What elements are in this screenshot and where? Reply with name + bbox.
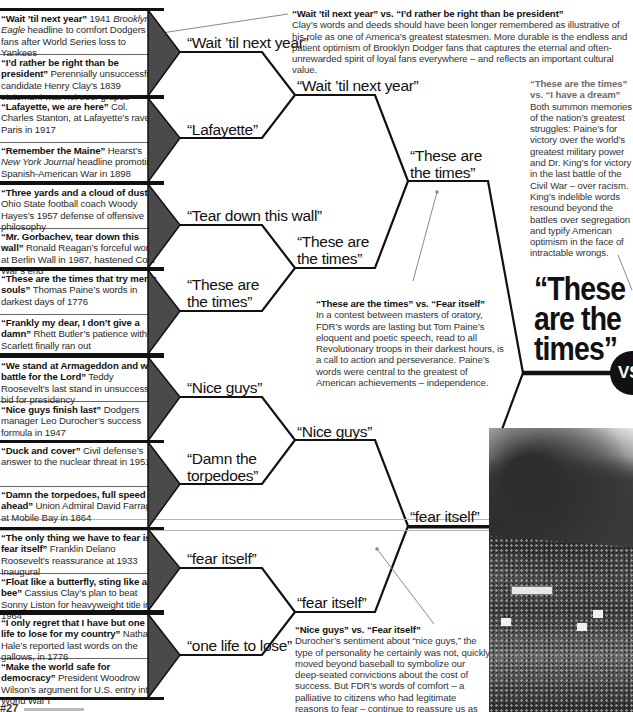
round1-winner-2: “Lafayette” [187, 121, 258, 138]
round1-winner-3: “Tear down this wall” [187, 207, 322, 224]
crowd-photo [489, 428, 633, 712]
round1-winner-4: “These are the times” [187, 276, 277, 310]
entry: “I only regret that I have but one life … [0, 615, 164, 658]
note-times-vs-fear: “These are the times” vs. “Fear itself” … [316, 298, 506, 388]
entry: “Lafayette, we are here” Col. Charles St… [0, 99, 164, 142]
photo-sign [501, 618, 511, 626]
entry: “Wait ’til next year” 1941 Brooklyn Eagl… [0, 11, 164, 54]
entry: “These are the times that try men’s soul… [0, 271, 164, 314]
round1-winner-5: “Nice guys” [187, 379, 262, 396]
note-wait-vs-president: “Wait ’til next year” vs. “I’d rather be… [292, 8, 632, 76]
matchup-4: “These are the times that try men’s soul… [0, 268, 164, 356]
note-nice-vs-fear: “Nice guys” vs. “Fear itself” Durocher’s… [295, 624, 491, 712]
round1-winner-7: “fear itself” [187, 550, 256, 567]
footer-rule [24, 708, 84, 711]
page-footer: #27 [0, 702, 84, 712]
matchup-7: “The only thing we have to fear is fear … [0, 527, 164, 613]
entry: “We stand at Armageddon and we battle fo… [0, 358, 164, 401]
round3-winner-2: “fear itself” [410, 508, 479, 525]
entry: “The only thing we have to fear is fear … [0, 530, 164, 573]
entry: “Damn the torpedoes, full speed ahead” U… [0, 486, 164, 526]
round2-winner-4: “fear itself” [297, 594, 366, 611]
matchup-3: “Three yards and a cloud of dust” Ohio S… [0, 182, 164, 270]
entry: “Three yards and a cloud of dust” Ohio S… [0, 185, 164, 228]
entry: “Remember the Maine” Hearst’s New York J… [0, 142, 164, 182]
matchup-5: “We stand at Armageddon and we battle fo… [0, 355, 164, 443]
note-times-vs-dream: “These are the times” vs. “I have a drea… [530, 78, 633, 259]
final-winner: “These are the times” [534, 274, 625, 364]
photo-sign [593, 610, 603, 618]
matchup-6: “Duck and cover” Civil defense’s answer … [0, 440, 164, 530]
matchup-1: “Wait ’til next year” 1941 Brooklyn Eagl… [0, 8, 164, 98]
round2-winner-3: “Nice guys” [297, 423, 372, 440]
entry: “Nice guys finish last” Dodgers manager … [0, 401, 164, 441]
round2-winner-2: “These are the times” [297, 233, 377, 267]
round1-winner-8: “one life to lose” [187, 637, 292, 654]
entry: “Duck and cover” Civil defense’s answer … [0, 443, 164, 486]
round2-winner-1: “Wait ’til next year” [297, 77, 418, 94]
round1-winner-6: “Damn the torpedoes” [187, 450, 267, 484]
matchup-8: “I only regret that I have but one life … [0, 612, 164, 700]
entry: “Frankly my dear, I don’t give a damn” R… [0, 314, 164, 354]
matchup-2: “Lafayette, we are here” Col. Charles St… [0, 96, 164, 184]
photo-sign [577, 623, 587, 631]
round1-winner-1: “Wait ’til next year” [187, 34, 308, 51]
round3-winner-1: “These are the times” [410, 147, 490, 181]
photo-banner [511, 586, 553, 595]
